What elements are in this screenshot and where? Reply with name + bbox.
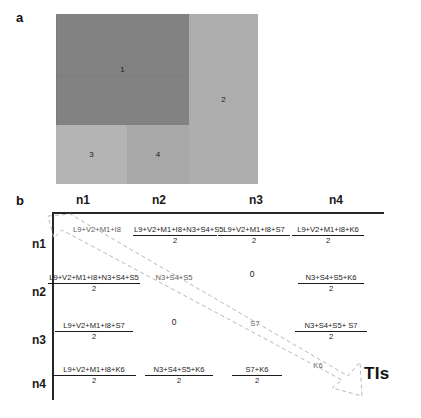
region-4-label: 4 xyxy=(156,150,160,159)
cell-denominator: 2 xyxy=(232,376,282,386)
tls-label: TIs xyxy=(364,364,389,384)
cell-numerator: L9+V2+M1+I8+S7 xyxy=(55,322,133,332)
cell-denominator: 2 xyxy=(292,236,364,246)
region-2-label: 2 xyxy=(221,95,225,104)
matrix-cell-n4-n2: N3+S4+S5+K6 2 xyxy=(145,366,213,386)
row-header-n4: n4 xyxy=(20,377,46,391)
matrix-cell-n2-n3: 0 xyxy=(230,270,274,280)
cell-denominator: 2 xyxy=(48,284,140,294)
matrix-cell-n3-n2: 0 xyxy=(152,318,196,328)
cell-denominator: 2 xyxy=(298,284,364,294)
row-header-n3: n3 xyxy=(20,333,46,347)
cell-denominator: 2 xyxy=(55,332,133,342)
column-header-n2: n2 xyxy=(139,193,179,207)
matrix-cell-n4-n3: S7+K6 2 xyxy=(232,366,282,386)
matrix-cell-n4-n4: K6 xyxy=(296,362,340,371)
cell-value: N3+S4+S5 xyxy=(140,274,208,283)
region-3-label: 3 xyxy=(89,150,93,159)
matrix-cell-n1-n1: L9+V2+M1+I8 xyxy=(58,226,136,235)
matrix-top-rule xyxy=(52,212,384,214)
cell-denominator: 2 xyxy=(52,376,136,386)
row-header-n1: n1 xyxy=(20,237,46,251)
cell-numerator: N3+S4+S5+K6 xyxy=(298,274,364,284)
panel-a: a 1 2 3 4 xyxy=(0,0,421,190)
block-partition-map: 1 2 3 4 xyxy=(56,14,258,184)
column-header-n4: n4 xyxy=(316,193,356,207)
cell-numerator: L9+V2+M1+I8+N3+S4+S5 xyxy=(48,274,140,284)
region-1-label: 1 xyxy=(120,65,124,74)
cell-numerator: L9+V2+M1+I8+S7 xyxy=(218,226,290,236)
matrix-cell-n3-n3: S7 xyxy=(235,320,275,329)
cell-denominator: 2 xyxy=(145,376,213,386)
column-header-n3: n3 xyxy=(236,193,276,207)
cell-value: K6 xyxy=(296,362,340,371)
cell-denominator: 2 xyxy=(218,236,290,246)
cell-value: 0 xyxy=(152,318,196,328)
matrix-cell-n1-n2: L9+V2+M1+I8+N3+S4+S5 2 xyxy=(133,226,217,246)
cell-denominator: 2 xyxy=(133,236,217,246)
matrix-cell-n3-n1: L9+V2+M1+I8+S7 2 xyxy=(55,322,133,342)
region-3: 3 xyxy=(56,125,127,184)
cell-value: 0 xyxy=(230,270,274,280)
cell-numerator: S7+K6 xyxy=(232,366,282,376)
cell-numerator: N3+S4+S5+K6 xyxy=(145,366,213,376)
region-seam-vertical xyxy=(56,14,57,125)
region-seam-horizontal xyxy=(56,76,189,77)
region-4: 4 xyxy=(127,125,189,184)
matrix-cell-n1-n4: L9+V2+M1+I8+K6 2 xyxy=(292,226,364,246)
matrix-cell-n4-n1: L9+V2+M1+I8+K6 2 xyxy=(52,366,136,386)
matrix-cell-n2-n1: L9+V2+M1+I8+N3+S4+S5 2 xyxy=(48,274,140,294)
region-2: 2 xyxy=(189,14,258,184)
matrix-cell-n2-n2: N3+S4+S5 xyxy=(140,274,208,283)
panel-a-label: a xyxy=(16,10,23,25)
cell-numerator: L9+V2+M1+I8+K6 xyxy=(52,366,136,376)
cell-numerator: L9+V2+M1+I8+N3+S4+S5 xyxy=(133,226,217,236)
panel-b: n1 n2 n3 n4 n1 n2 n3 n4 L9+V2+M1+I8 L9+V… xyxy=(0,190,421,418)
cell-value: L9+V2+M1+I8 xyxy=(58,226,136,235)
row-header-n2: n2 xyxy=(20,285,46,299)
matrix-cell-n1-n3: L9+V2+M1+I8+S7 2 xyxy=(218,226,290,246)
matrix-cell-n3-n4: N3+S4+S5+ S7 2 xyxy=(295,322,367,342)
cell-value: S7 xyxy=(235,320,275,329)
cell-numerator: N3+S4+S5+ S7 xyxy=(295,322,367,332)
cell-numerator: L9+V2+M1+I8+K6 xyxy=(292,226,364,236)
matrix-cell-n2-n4: N3+S4+S5+K6 2 xyxy=(298,274,364,294)
cell-denominator: 2 xyxy=(295,332,367,342)
region-1: 1 xyxy=(56,14,189,125)
column-header-n1: n1 xyxy=(63,193,103,207)
